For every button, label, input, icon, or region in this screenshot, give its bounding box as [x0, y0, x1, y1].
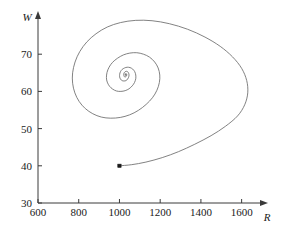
x-tick-label: 600 [30, 206, 47, 218]
x-axis-tick-labels: 6008001000120014001600 [30, 206, 253, 218]
initial-condition-marker [118, 164, 121, 167]
x-tick-label: 1600 [231, 206, 254, 218]
x-axis-label: R [263, 211, 271, 223]
y-tick-label: 30 [21, 197, 33, 209]
y-axis-label: W [22, 11, 32, 23]
y-axis-tick-labels: 3040506070 [21, 48, 33, 209]
phase-plane-chart: 6008001000120014001600 3040506070 R W [0, 0, 286, 235]
x-axis-arrow-icon [260, 200, 268, 206]
y-tick-label: 60 [21, 85, 33, 97]
x-axis-ticks [38, 199, 242, 203]
x-tick-label: 1200 [149, 206, 172, 218]
trajectory-curve [72, 20, 248, 166]
y-tick-label: 40 [21, 160, 33, 172]
chart-figure: 6008001000120014001600 3040506070 R W [0, 0, 286, 235]
x-tick-label: 1400 [190, 206, 213, 218]
y-axis-arrow-icon [35, 11, 41, 19]
y-axis-ticks [38, 54, 42, 203]
y-tick-label: 50 [21, 123, 33, 135]
y-tick-label: 70 [21, 48, 33, 60]
x-tick-label: 800 [70, 206, 87, 218]
x-tick-label: 1000 [108, 206, 131, 218]
